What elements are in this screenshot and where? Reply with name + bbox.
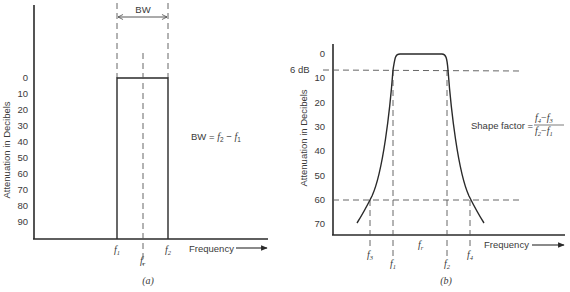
formula-numerator: f4−f3 (535, 112, 553, 124)
svg-text:0: 0 (320, 48, 325, 59)
svg-text:40: 40 (17, 136, 28, 147)
fr-label: fr (418, 239, 424, 251)
y-axis-label: Attenuation in Decibels (1, 101, 12, 198)
f3-label: f3 (367, 249, 374, 261)
ideal-passband (117, 78, 168, 239)
panel-b: Attenuation in Decibels 0 10 20 30 40 50… (290, 44, 565, 287)
f2-label: f2 (444, 258, 451, 270)
svg-text:80: 80 (17, 200, 28, 211)
6db-line (323, 70, 521, 71)
svg-text:60: 60 (17, 168, 28, 179)
formula-denominator: f2−f1 (535, 125, 553, 137)
shape-factor-formula: Shape factor = f4−f3 f2−f1 (471, 112, 564, 137)
f1-label: f1 (114, 244, 120, 256)
caption-a: (a) (142, 275, 154, 287)
svg-text:90: 90 (17, 216, 28, 227)
svg-text:50: 50 (17, 152, 28, 163)
f2-label: f2 (165, 244, 172, 256)
y-tick-labels: 0 10 20 30 40 50 60 70 (314, 48, 325, 229)
x-axis-label: Frequency (189, 243, 234, 254)
svg-text:20: 20 (314, 97, 325, 108)
bw-label: BW (135, 4, 150, 15)
svg-text:40: 40 (314, 145, 325, 156)
svg-text:30: 30 (314, 121, 325, 132)
svg-text:50: 50 (314, 170, 325, 181)
panel-a: Attenuation in Decibels 0 10 20 30 40 50… (1, 3, 268, 287)
svg-text:30: 30 (17, 120, 28, 131)
svg-text:60: 60 (314, 194, 325, 205)
svg-text:Shape factor =: Shape factor = (471, 120, 534, 131)
6db-label: 6 dB (290, 64, 310, 75)
filter-response-curve (357, 54, 484, 223)
caption-b: (b) (440, 275, 452, 287)
y-tick-labels: 0 10 20 30 40 50 60 70 80 90 (17, 72, 28, 227)
filter-diagrams: Attenuation in Decibels 0 10 20 30 40 50… (0, 0, 570, 292)
f4-label: f4 (467, 249, 474, 261)
svg-text:10: 10 (314, 72, 325, 83)
y-axis-label: Attenuation in Decibels (298, 89, 309, 186)
f1-label: f1 (390, 258, 396, 270)
svg-text:0: 0 (23, 72, 28, 83)
svg-text:20: 20 (17, 104, 28, 115)
svg-text:70: 70 (314, 218, 325, 229)
svg-text:70: 70 (17, 184, 28, 195)
bw-formula: BW = f2 − f1 (191, 131, 241, 143)
x-axis-label: Frequency (484, 239, 529, 250)
svg-text:10: 10 (17, 88, 28, 99)
